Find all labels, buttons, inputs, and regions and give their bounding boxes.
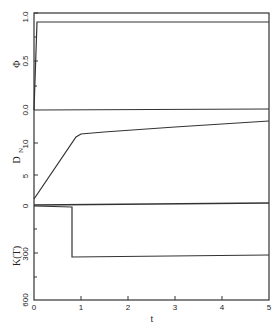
dn-axis-label: D N <box>11 148 25 164</box>
phi-zero-line <box>34 109 269 110</box>
phi-axis-label: Φ <box>11 60 22 67</box>
x-tick-3: 3 <box>173 303 178 312</box>
kt-tick-300: 300 <box>21 247 30 261</box>
dn-tick-0: 0 <box>21 203 30 208</box>
x-tick-0: 0 <box>32 303 37 312</box>
x-axis-label: t <box>151 313 154 324</box>
plot-frame <box>34 13 269 300</box>
phi-tick-0.0: 0.0 <box>21 104 30 116</box>
stacked-time-series-chart: 1.0 0.5 0.0 Φ 10 5 0 D N 300 600 K(T) 0 … <box>0 0 279 334</box>
kt-zero-line <box>34 203 269 205</box>
svg-text:D: D <box>11 156 22 163</box>
phi-series-line <box>34 22 269 110</box>
x-tick-4: 4 <box>220 303 225 312</box>
svg-text:N: N <box>17 148 25 153</box>
dn-tick-5: 5 <box>21 173 30 178</box>
phi-tick-0.5: 0.5 <box>21 55 30 67</box>
phi-tick-1.0: 1.0 <box>21 11 30 23</box>
x-tick-1: 1 <box>79 303 84 312</box>
kt-tick-600: 600 <box>21 293 30 307</box>
x-tick-2: 2 <box>126 303 131 312</box>
x-tick-5: 5 <box>267 303 272 312</box>
kt-series-line <box>34 206 269 257</box>
kt-axis-label: K(T) <box>11 246 23 266</box>
dn-tick-10: 10 <box>21 139 30 148</box>
dn-series-line <box>34 121 269 199</box>
